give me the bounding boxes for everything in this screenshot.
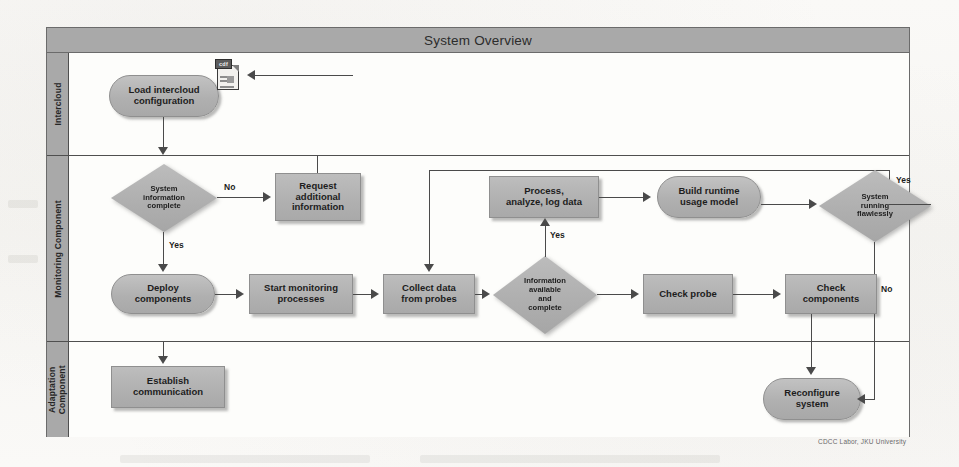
connector-build-to-sysrunning xyxy=(761,204,813,205)
connector-sysrunning-yes xyxy=(889,204,931,205)
connector-checkcomponents-down xyxy=(811,314,812,342)
node-system-information-complete[interactable]: System information complete xyxy=(111,164,217,232)
node-label: Load intercloud configuration xyxy=(128,85,199,107)
arrow-process-to-build xyxy=(643,192,651,202)
connector-sysinfo-no xyxy=(217,197,266,198)
connector-checkcomponents-to-reconfigure xyxy=(811,342,812,368)
lane-label-adaptation: Adaptation Component xyxy=(48,365,68,414)
node-label: Build runtime usage model xyxy=(678,186,739,208)
arrow-sysinfo-yes xyxy=(158,264,168,272)
diagram-frame: System Overview Intercloud Load interclo… xyxy=(46,27,910,437)
lane-body-monitoring: System information complete No Request a… xyxy=(69,156,909,341)
arrow-checkprobe-to-checkcomponents xyxy=(773,289,781,299)
document-fold-corner xyxy=(232,65,239,72)
arrow-into-establish-communication xyxy=(158,356,168,364)
arrow-feedback-into-collect xyxy=(424,264,434,272)
node-process-analyze-log-data[interactable]: Process, analyze, log data xyxy=(489,176,599,218)
node-system-running-flawlessly[interactable]: System running flawlessly xyxy=(819,170,931,242)
ghost-text xyxy=(420,455,720,463)
arrow-infoavail-yes-up xyxy=(540,218,550,226)
connector-infoavail-to-checkprobe xyxy=(597,294,635,295)
node-label: Establish communication xyxy=(133,376,203,398)
connector-feedback-down-to-collect xyxy=(429,170,430,265)
node-label: Start monitoring processes xyxy=(264,283,338,305)
arrow-infoavail-to-checkprobe xyxy=(631,289,639,299)
arrow-build-to-sysrunning xyxy=(809,199,817,209)
edge-label-yes: Yes xyxy=(169,240,184,250)
connector-no-branch-down xyxy=(874,342,875,399)
document-line xyxy=(220,86,234,88)
credit-text: CDCC Labor, JKU University xyxy=(818,438,906,445)
lane-monitoring: Monitoring Component System information … xyxy=(47,156,909,342)
node-label: Check probe xyxy=(659,289,717,300)
config-document-icon[interactable]: cdf xyxy=(215,59,241,91)
node-reconfigure-system[interactable]: Reconfigure system xyxy=(763,378,861,420)
node-check-probe[interactable]: Check probe xyxy=(643,274,733,314)
arrow-collect-to-infoavail xyxy=(482,289,490,299)
arrow-no-branch-into-reconfigure xyxy=(857,394,865,404)
connector-sysinfo-yes xyxy=(163,232,164,265)
ghost-text xyxy=(8,200,38,208)
arrow-into-reconfigure-system xyxy=(806,367,816,375)
edge-label-yes: Yes xyxy=(896,175,911,185)
connector-load-config-down xyxy=(163,117,164,148)
node-collect-data-from-probes[interactable]: Collect data from probes xyxy=(383,274,475,314)
lane-header-monitoring: Monitoring Component xyxy=(47,156,69,341)
node-label: Check components xyxy=(803,283,859,305)
node-label: Process, analyze, log data xyxy=(506,186,582,208)
lane-label-intercloud: Intercloud xyxy=(53,82,63,125)
lane-header-intercloud: Intercloud xyxy=(47,53,69,155)
diagram-title-bar: System Overview xyxy=(47,28,909,53)
node-load-intercloud-configuration[interactable]: Load intercloud configuration xyxy=(109,75,219,117)
edge-label-no: No xyxy=(881,284,892,294)
ghost-text xyxy=(120,455,370,463)
node-start-monitoring-processes[interactable]: Start monitoring processes xyxy=(249,274,353,314)
page-title: System Overview xyxy=(424,33,532,48)
node-label: Information available and complete xyxy=(518,277,572,313)
arrow-start-to-collect xyxy=(371,289,379,299)
lane-header-adaptation: Adaptation Component xyxy=(47,342,69,437)
connector-checkprobe-to-checkcomponents xyxy=(733,294,777,295)
node-label: System running flawlessly xyxy=(851,193,899,220)
arrow-deploy-to-start xyxy=(236,289,244,299)
lane-label-monitoring: Monitoring Component xyxy=(53,200,63,297)
connector-process-to-build xyxy=(599,197,647,198)
node-label: Deploy components xyxy=(135,283,191,305)
lane-intercloud: Intercloud Load intercloud configuration… xyxy=(47,53,909,156)
node-establish-communication[interactable]: Establish communication xyxy=(111,366,225,408)
ghost-text xyxy=(8,255,38,263)
arrow-load-config-down xyxy=(158,147,168,155)
connector-deploy-to-establish xyxy=(163,342,164,357)
lane-adaptation: Adaptation Component Establish communica… xyxy=(47,342,909,437)
connector-request-up xyxy=(317,156,318,173)
node-label: Reconfigure system xyxy=(784,388,839,410)
node-build-runtime-usage-model[interactable]: Build runtime usage model xyxy=(657,176,761,218)
node-deploy-components[interactable]: Deploy components xyxy=(111,274,215,314)
edge-label-yes: Yes xyxy=(550,230,565,240)
document-tab-label: cdf xyxy=(215,59,232,69)
node-label: System information complete xyxy=(137,185,191,212)
edge-label-no: No xyxy=(224,182,235,192)
connector-infoavail-yes-up xyxy=(545,224,546,257)
connector-no-branch-into-reconfigure xyxy=(865,399,875,400)
arrow-into-config-document xyxy=(247,70,255,80)
arrow-sysinfo-no xyxy=(263,192,271,202)
node-request-additional-information[interactable]: Request additional information xyxy=(275,173,361,221)
document-block xyxy=(227,76,234,83)
lane-body-adaptation: Establish communication Reconfigure syst… xyxy=(69,342,909,437)
node-check-components[interactable]: Check components xyxy=(785,274,877,314)
node-label: Request additional information xyxy=(292,181,344,214)
connector-request-to-config xyxy=(255,75,353,76)
lane-body-intercloud: Load intercloud configuration cdf xyxy=(69,53,909,155)
node-label: Collect data from probes xyxy=(401,283,456,305)
node-information-available-and-complete[interactable]: Information available and complete xyxy=(493,256,597,334)
